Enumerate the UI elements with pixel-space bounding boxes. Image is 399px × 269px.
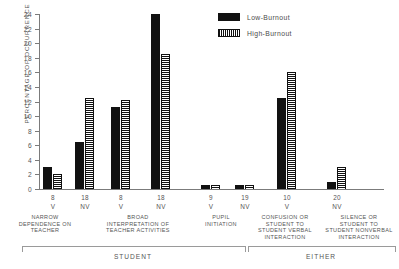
group-bracket — [248, 246, 396, 252]
x-axis-line — [39, 189, 384, 190]
y-axis-tick-label: 2 — [28, 171, 32, 178]
legend-swatch-striped-icon — [218, 29, 240, 37]
bar-group — [111, 14, 132, 189]
x-axis-category-description: CONFUSION ORSTUDENT TOSTUDENT VERBALINTE… — [248, 214, 322, 240]
y-axis-tick-label: 0 — [28, 186, 32, 193]
y-axis-tick-label: 22 — [24, 25, 32, 32]
y-axis-tick-label: 16 — [24, 69, 32, 76]
bar-group — [151, 14, 172, 189]
x-axis-category-code: V — [101, 203, 141, 210]
chart-legend: Low-Burnout High-Burnout — [218, 11, 292, 43]
x-axis-category-number: 8 — [101, 194, 141, 201]
chart-container: PERCENTAGE OF OCCURRENCE 024681012141618… — [0, 0, 399, 269]
x-axis-description-line: PUPIL — [190, 214, 252, 221]
x-axis-category-number: 20 — [317, 194, 357, 201]
bar-group — [75, 14, 96, 189]
bar-low-burnout — [277, 98, 286, 189]
bar-high-burnout — [53, 174, 62, 189]
x-axis-description-line: STUDENT TO — [248, 221, 322, 228]
group-bracket — [22, 246, 246, 252]
x-axis-description-line: STUDENT NONVERBAL — [320, 227, 398, 234]
x-axis-category-number: 18 — [141, 194, 181, 201]
x-axis-category-code: NV — [65, 203, 105, 210]
bar-low-burnout — [151, 14, 160, 189]
x-axis-description-line: DEPENDENCE ON — [8, 221, 82, 228]
bar-group — [43, 14, 64, 189]
legend-item-high-burnout: High-Burnout — [218, 27, 292, 39]
legend-item-low-burnout: Low-Burnout — [218, 11, 292, 23]
bar-high-burnout — [161, 54, 170, 189]
bar-high-burnout — [245, 185, 254, 189]
x-axis-description-line: TEACHER ACTIVITIES — [90, 227, 186, 234]
x-axis-category-description: PUPILINITIATION — [190, 214, 252, 227]
plot-area — [39, 14, 384, 189]
legend-label-high-burnout: High-Burnout — [247, 30, 292, 37]
x-axis-description-line: CONFUSION OR — [248, 214, 322, 221]
y-axis-tick-label: 6 — [28, 142, 32, 149]
bar-high-burnout — [287, 72, 296, 189]
y-axis-tick-label: 20 — [24, 40, 32, 47]
bar-low-burnout — [327, 182, 336, 189]
x-axis-category-description: NARROWDEPENDENCE ONTEACHER — [8, 214, 82, 234]
group-bracket-label-student: STUDENT — [22, 253, 244, 260]
x-axis-description-line: STUDENT TO — [320, 221, 398, 228]
bar-low-burnout — [43, 167, 52, 189]
x-axis-category-code: V — [267, 203, 307, 210]
bar-high-burnout — [211, 185, 220, 189]
x-axis-description-line: INTERACTION — [320, 234, 398, 241]
y-axis-tick-label: 24 — [24, 11, 32, 18]
x-axis-category-code: NV — [225, 203, 265, 210]
x-axis-description-line: STUDENT VERBAL — [248, 227, 322, 234]
bar-high-burnout — [337, 167, 346, 189]
legend-label-low-burnout: Low-Burnout — [247, 14, 290, 21]
y-axis-tick-label: 4 — [28, 156, 32, 163]
x-axis-category-number: 19 — [225, 194, 265, 201]
bar-low-burnout — [201, 185, 210, 189]
bar-high-burnout — [121, 100, 130, 189]
x-axis-category-number: 10 — [267, 194, 307, 201]
y-axis-tick-label: 14 — [24, 83, 32, 90]
x-axis-description-line: INTERPRETATION OF — [90, 221, 186, 228]
x-axis-description-line: NARROW — [8, 214, 82, 221]
x-axis-description-line: INITIATION — [190, 221, 252, 228]
y-axis-scale: 024681012141618202224 — [0, 14, 39, 190]
x-axis-category-description: SILENCE ORSTUDENT TOSTUDENT NONVERBALINT… — [320, 214, 398, 240]
bar-group — [327, 14, 348, 189]
x-axis-description-line: SILENCE OR — [320, 214, 398, 221]
bar-low-burnout — [75, 142, 84, 189]
x-axis-description-line: TEACHER — [8, 227, 82, 234]
bar-low-burnout — [111, 107, 120, 189]
bar-low-burnout — [235, 185, 244, 189]
x-axis-category-code: NV — [317, 203, 357, 210]
y-axis-tick-label: 10 — [24, 113, 32, 120]
bar-high-burnout — [85, 98, 94, 189]
x-axis-description-line: INTERACTION — [248, 234, 322, 241]
legend-swatch-solid-icon — [218, 13, 240, 21]
y-axis-tick-label: 12 — [24, 98, 32, 105]
x-axis-category-code: NV — [141, 203, 181, 210]
group-bracket-label-either: EITHER — [248, 253, 394, 260]
y-axis-tick-label: 18 — [24, 54, 32, 61]
x-axis-description-line: BROAD — [90, 214, 186, 221]
x-axis-category-description: BROADINTERPRETATION OFTEACHER ACTIVITIES — [90, 214, 186, 234]
x-axis-category-number: 18 — [65, 194, 105, 201]
y-axis-tick-label: 8 — [28, 127, 32, 134]
